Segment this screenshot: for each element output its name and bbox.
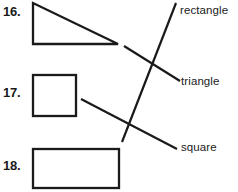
match-line-triangle[interactable] [124, 46, 180, 81]
shapes-and-lines-layer [0, 0, 238, 192]
shape-rectangle[interactable] [33, 149, 119, 188]
matching-worksheet: 16. 17. 18. rectangle triangle square [0, 0, 238, 192]
match-line-square[interactable] [81, 99, 177, 149]
shape-square[interactable] [33, 75, 76, 116]
shape-triangle[interactable] [33, 3, 118, 44]
worksheet-vector-canvas [0, 0, 238, 192]
